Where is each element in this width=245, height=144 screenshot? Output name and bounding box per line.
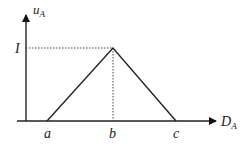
y-axis-label: uA (33, 2, 46, 19)
x-point-c: c (173, 126, 180, 141)
x-axis-label: DA (220, 114, 237, 131)
x-point-b: b (109, 126, 116, 141)
membership-function-diagram: uA I DA a b c (0, 0, 245, 144)
peak-label: I (14, 41, 21, 56)
x-point-a: a (44, 126, 51, 141)
triangle-function (47, 48, 176, 121)
